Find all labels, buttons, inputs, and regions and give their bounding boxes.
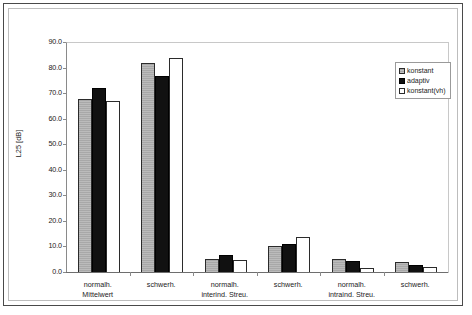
bar [219,255,233,273]
legend-swatch-icon [399,88,405,94]
y-axis-tick-label: 10.0 [32,242,62,249]
legend-item: konstant [399,66,446,75]
bar [141,63,155,273]
y-axis-tick-label: 30.0 [32,191,62,198]
category-label: schwerh. [384,280,448,290]
plot-area [66,42,449,273]
bar-group [141,43,183,273]
legend-item-label: konstant [407,67,433,74]
legend-item-label: konstant(vh) [407,87,446,94]
category-tick-mark [130,272,131,276]
legend-swatch-icon [399,68,405,74]
y-axis-tick-label: 70.0 [32,89,62,96]
chart-legend: konstantadaptivkonstant(vh) [395,62,451,99]
category-label-line: interind. Streu. [193,290,257,300]
legend-item: konstant(vh) [399,86,446,95]
bar [169,58,183,273]
y-axis-tick-label: 0.0 [32,268,62,275]
category-label-line: schwerh. [257,280,321,290]
bar-group [78,43,120,273]
category-tick-mark [257,272,258,276]
bar-group [268,43,310,273]
y-axis-tick-label: 50.0 [32,140,62,147]
category-tick-mark [320,272,321,276]
bar [205,259,219,273]
bar [155,76,169,273]
legend-item: adaptiv [399,76,446,85]
category-tick-mark [193,272,194,276]
bar [78,99,92,273]
category-label-line: intraind. Streu. [320,290,384,300]
y-axis-tick-label: 60.0 [32,115,62,122]
y-axis-tick-labels: 90.080.070.060.050.040.030.020.010.00.0 [27,9,62,315]
y-axis-title: L25 [dB] [14,109,23,179]
category-label-line: normalh. [66,280,130,290]
legend-item-label: adaptiv [407,77,430,84]
category-label-line: Mittelwert [66,290,130,300]
category-label: normalh.Mittelwert [66,280,130,299]
category-label: schwerh. [130,280,194,290]
legend-swatch-icon [399,78,405,84]
category-label-line: schwerh. [130,280,194,290]
category-label-line: normalh. [193,280,257,290]
bar [106,101,120,274]
category-tick-mark [384,272,385,276]
category-label-line: normalh. [320,280,384,290]
bar-group [332,43,374,273]
y-axis-tick-label: 90.0 [32,38,62,45]
figure-inner-frame: 90.080.070.060.050.040.030.020.010.00.0 … [8,8,458,301]
category-label: normalh.interind. Streu. [193,280,257,299]
bar-group [205,43,247,273]
bar [332,259,346,273]
y-axis-tick-label: 40.0 [32,166,62,173]
bar [268,246,282,273]
figure-outer-frame: 90.080.070.060.050.040.030.020.010.00.0 … [3,3,463,306]
category-label-line: schwerh. [384,280,448,290]
y-axis-tick-label: 80.0 [32,64,62,71]
category-label: schwerh. [257,280,321,290]
y-axis-tick-label: 20.0 [32,217,62,224]
bar [92,88,106,273]
bar [296,237,310,273]
category-label: normalh.intraind. Streu. [320,280,384,299]
bar [282,244,296,273]
